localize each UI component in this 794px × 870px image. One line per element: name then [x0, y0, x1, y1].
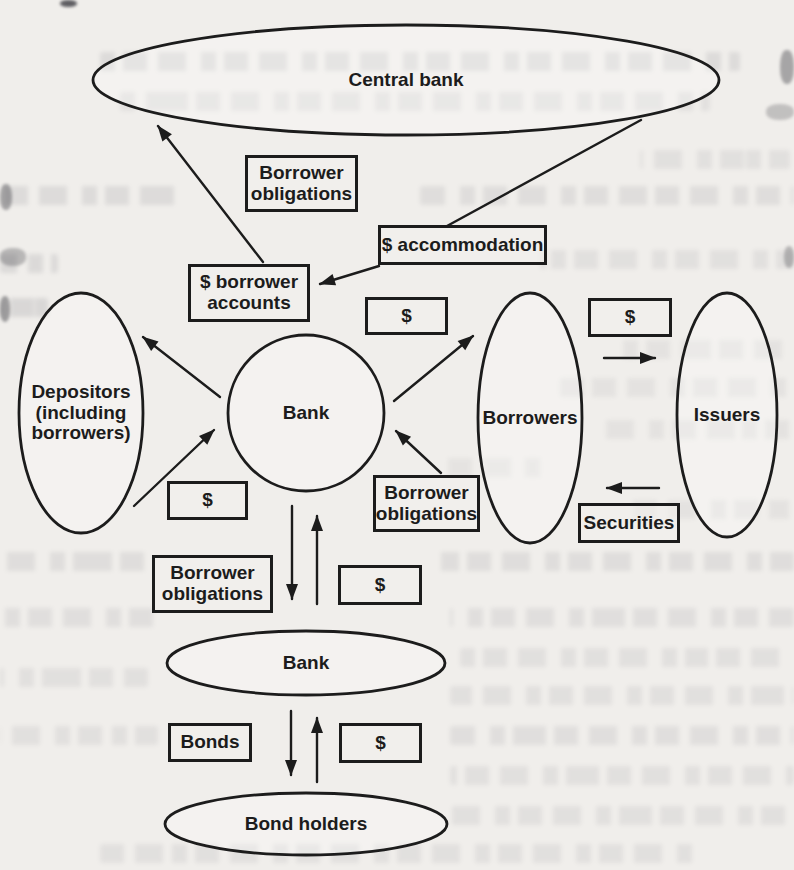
flow-box-dollar-left: $	[167, 481, 248, 520]
flow-box-accommodation: $ accommodation	[378, 225, 547, 265]
flow-box-dollar-right: $	[588, 298, 672, 337]
flow-box-borrower-obligations-mid: Borrower obligations	[373, 475, 480, 532]
node-bond-holders-label: Bond holders	[226, 812, 386, 836]
flow-box-borrower-obligations-lower: Borrower obligations	[152, 555, 273, 613]
node-borrowers-label: Borrowers	[480, 406, 580, 430]
flow-box-borrower-obligations-top: Borrower obligations	[245, 155, 358, 212]
node-depositors-label: Depositors (including borrowers)	[28, 368, 134, 458]
flow-box-dollar-mid: $	[365, 297, 448, 335]
node-issuers-label: Issuers	[677, 403, 777, 427]
flow-box-bonds: Bonds	[168, 723, 252, 762]
flow-box-dollar-bottom: $	[339, 723, 422, 763]
node-bank-lower-label: Bank	[266, 651, 346, 675]
flow-box-securities: Securities	[578, 503, 680, 543]
flow-box-borrower-accounts: $ borrower accounts	[188, 264, 310, 322]
node-central-bank-label: Central bank	[326, 68, 486, 92]
flow-box-dollar-lower: $	[338, 565, 422, 605]
node-bank-upper-label: Bank	[266, 401, 346, 425]
scanned-book-page: Central bank Depositors (including borro…	[0, 0, 794, 870]
